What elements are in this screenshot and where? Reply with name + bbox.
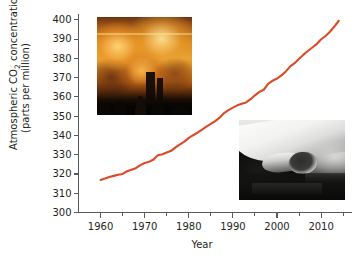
- x-tick-label: 1960: [88, 221, 113, 232]
- y-tick-label: 360: [52, 91, 71, 102]
- y-tick-label: 300: [52, 207, 71, 218]
- x-axis-ticks: 196019701980199020002010: [88, 213, 343, 232]
- y-tick-label: 380: [52, 53, 71, 64]
- y-tick-label: 390: [52, 33, 71, 44]
- y-tick-label: 370: [52, 72, 71, 83]
- y-axis-title-text-b: concentration: [8, 0, 19, 64]
- y-axis: 300310320330340350360370380390400: [52, 14, 78, 218]
- y-tick-label: 330: [52, 149, 71, 160]
- co2-concentration-line: [101, 21, 339, 180]
- y-tick-label: 310: [52, 188, 71, 199]
- y-axis-title-text-a: Atmospheric CO: [8, 69, 19, 150]
- y-tick-label: 320: [52, 168, 71, 179]
- y-axis-title-line2: (parts per million): [20, 43, 31, 133]
- x-axis-title: Year: [190, 239, 213, 250]
- x-tick-label: 2000: [264, 221, 289, 232]
- y-axis-ticks: 300310320330340350360370380390400: [52, 14, 78, 218]
- y-axis-title: Atmospheric CO2 concentration (parts per…: [8, 0, 31, 150]
- x-axis: 196019701980199020002010: [79, 213, 353, 232]
- y-tick-label: 350: [52, 111, 71, 122]
- x-tick-label: 1980: [176, 221, 201, 232]
- chart-canvas: 300310320330340350360370380390400 196019…: [0, 0, 362, 263]
- figure-root: 300310320330340350360370380390400 196019…: [0, 0, 362, 263]
- y-tick-label: 400: [52, 14, 71, 25]
- x-tick-label: 2010: [308, 221, 333, 232]
- x-tick-label: 1970: [132, 221, 157, 232]
- y-tick-label: 340: [52, 130, 71, 141]
- x-tick-label: 1990: [220, 221, 245, 232]
